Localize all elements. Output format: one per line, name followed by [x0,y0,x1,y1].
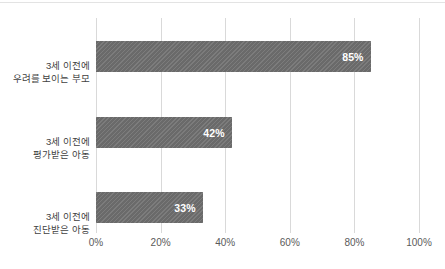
category-label-0: 3세 이전에 우려를 보이는 부모 [0,59,90,85]
category-label-2: 3세 이전에 진단받은 아동 [0,210,90,236]
gridline-100 [419,18,420,233]
x-axis-tick-labels: 0%20%40%60%80%100% [96,237,419,257]
plot-area: 85%42%33% [96,18,419,233]
bar-value-label-2: 33% [174,202,202,214]
category-label-2-line-1: 진단받은 아동 [0,223,90,236]
x-tick-label-5: 100% [406,237,432,248]
category-label-0-line-1: 우려를 보이는 부모 [0,72,90,85]
figure-top-rule [0,2,445,3]
category-label-1-line-1: 평가받은 아동 [0,148,90,161]
bar-0: 85% [96,41,371,72]
category-label-1: 3세 이전에 평가받은 아동 [0,135,90,161]
bar-1: 42% [96,117,232,148]
x-tick-label-4: 80% [344,237,364,248]
bar-value-label-1: 42% [203,127,231,139]
category-axis-labels: 3세 이전에 우려를 보이는 부모 3세 이전에 평가받은 아동 3세 이전에 … [0,18,90,233]
x-tick-label-1: 20% [151,237,171,248]
category-label-1-line-0: 3세 이전에 [0,135,90,148]
x-tick-label-0: 0% [89,237,103,248]
category-label-2-line-0: 3세 이전에 [0,210,90,223]
x-tick-label-3: 60% [280,237,300,248]
x-tick-label-2: 40% [215,237,235,248]
bar-2: 33% [96,192,203,223]
category-label-0-line-0: 3세 이전에 [0,59,90,72]
bar-chart-figure: 3세 이전에 우려를 보이는 부모 3세 이전에 평가받은 아동 3세 이전에 … [0,0,445,269]
bar-value-label-0: 85% [342,51,370,63]
